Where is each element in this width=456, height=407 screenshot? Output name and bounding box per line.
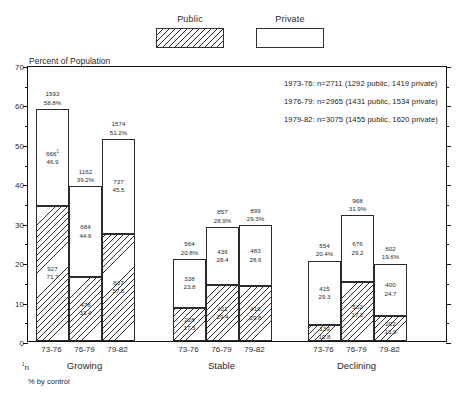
y-tick-minor (25, 87, 28, 88)
stacked-bar: 22817.533823.856420.8% (173, 259, 206, 341)
y-tick-label: 20 (15, 260, 28, 269)
annotation-line-3: 1979-82: n=3075 (1455 public, 1620 priva… (284, 115, 438, 124)
bar-total-label: 85728.9% (214, 208, 232, 225)
y-tick-right (446, 343, 451, 344)
bar-segment-private-label: 666146.9 (46, 149, 59, 167)
y-tick-label: 70 (15, 63, 28, 72)
bar-segment-private-label: 48328.6 (249, 247, 261, 264)
group-label-stable: Stable (208, 360, 235, 371)
bar-segment-private: 48328.6 (239, 225, 272, 286)
bar-segment-public: 92771.7 (36, 206, 69, 341)
y-tick-right (446, 126, 449, 127)
bar-total-label: 159358.8% (44, 90, 62, 107)
footnote-marker-text: n (25, 363, 29, 372)
x-tick-label: 73-76 (41, 345, 61, 354)
bar-segment-public-label: 20213.9 (384, 320, 396, 337)
bar-segment-private-label: 41529.3 (318, 285, 330, 302)
sample-size-annotation: 1973-76: n=2711 (1292 public, 1419 priva… (284, 79, 438, 133)
y-tick-right (446, 225, 451, 226)
bar-segment-public-label: 47833.4 (79, 301, 91, 318)
plot-area: 1973-76: n=2711 (1292 public, 1419 priva… (27, 66, 447, 342)
x-tick-label: 73-76 (178, 345, 198, 354)
y-tick-right (446, 244, 449, 245)
bar-segment-public-label: 92771.7 (46, 265, 58, 282)
y-tick-label: 30 (15, 220, 28, 229)
stacked-bar: 42129.443628.485728.9% (206, 227, 239, 341)
legend-item-private: Private (240, 14, 340, 48)
x-tick-label: 76-79 (346, 345, 366, 354)
bar-segment-public: 83757.5 (102, 234, 135, 341)
bar-segment-private-label: 43628.4 (216, 248, 228, 265)
stacked-bar: 53217.267629.296831.9% (341, 215, 374, 341)
chart-canvas: Public Private Percent of Population 197… (0, 0, 456, 407)
bar-segment-private: 666146.9 (36, 109, 69, 206)
y-tick-right (446, 166, 449, 167)
x-tick-label: 79-82 (244, 345, 264, 354)
bar-segment-private-label: 68444.6 (79, 223, 91, 240)
stacked-bar: 13910.841529.355420.4% (308, 261, 341, 341)
y-tick-minor (25, 284, 28, 285)
bar-segment-public-label: 53217.2 (351, 303, 363, 320)
bar-total-label: 55420.4% (316, 242, 334, 259)
y-tick-right (446, 185, 451, 186)
bar-total-label: 89929.3% (247, 207, 265, 224)
bar-segment-public-label: 41629.8 (249, 305, 261, 322)
bar-segment-private: 67629.2 (341, 215, 374, 282)
bar-segment-private: 40024.7 (374, 264, 407, 316)
footnote-marker-line: 1n (22, 362, 70, 372)
y-tick-label: 60 (15, 102, 28, 111)
chart-footnote: 1n % by control (22, 362, 70, 386)
bar-segment-public: 22817.5 (173, 308, 206, 341)
bar-segment-public: 13910.8 (308, 325, 341, 341)
stacked-bar: 47833.468444.6116239.2% (69, 186, 102, 341)
bar-segment-private-label: 67629.2 (351, 240, 363, 257)
bar-segment-public-label: 13910.8 (318, 325, 330, 342)
bar-segment-public: 41629.8 (239, 286, 272, 341)
bar-segment-public: 53217.2 (341, 282, 374, 341)
bar-segment-private: 73745.5 (102, 139, 135, 234)
annotation-line-1: 1973-76: n=2711 (1292 public, 1419 priva… (284, 79, 438, 88)
group-label-growing: Growing (67, 360, 102, 371)
y-tick-label: 40 (15, 181, 28, 190)
bar-segment-private: 43628.4 (206, 227, 239, 285)
y-tick-right (446, 284, 449, 285)
legend-item-public: Public (140, 14, 240, 48)
x-tick-label: 73-76 (313, 345, 333, 354)
annotation-line-2: 1976-79: n=2965 (1431 public, 1534 priva… (284, 97, 438, 106)
bar-total-label: 96831.9% (349, 197, 367, 214)
y-tick-right (446, 264, 451, 265)
x-axis-period-labels: 73-7676-7979-8273-7676-7979-8273-7676-79… (27, 345, 447, 359)
x-tick-label: 76-79 (74, 345, 94, 354)
bar-total-label: 60219.6% (382, 245, 400, 262)
bar-segment-private: 33823.8 (173, 259, 206, 308)
chart-legend: Public Private (0, 0, 456, 55)
stacked-bar: 41629.848328.689929.3% (239, 225, 272, 341)
bar-segment-public-label: 83757.5 (112, 279, 124, 296)
y-tick-right (446, 146, 451, 147)
bar-segment-private-label: 33823.8 (183, 275, 195, 292)
y-axis-title: Percent of Population (29, 56, 110, 66)
y-tick-minor (25, 244, 28, 245)
y-tick-label: 50 (15, 141, 28, 150)
y-tick-minor (25, 323, 28, 324)
stacked-bar: 92771.7666146.9159358.8% (36, 109, 69, 341)
y-tick-right (446, 323, 449, 324)
y-tick-right (446, 205, 449, 206)
y-tick-right (446, 87, 449, 88)
y-tick-right (446, 304, 451, 305)
bar-segment-public-label: 22817.5 (183, 316, 195, 333)
bar-total-label: 56420.8% (181, 240, 199, 257)
bar-total-label: 157451.2% (110, 120, 128, 137)
bar-segment-public: 47833.4 (69, 277, 102, 341)
bar-segment-private-label: 73745.5 (112, 178, 124, 195)
legend-label-private: Private (240, 14, 340, 24)
y-tick-minor (25, 126, 28, 127)
y-tick-right (446, 106, 451, 107)
y-tick-minor (25, 205, 28, 206)
legend-swatch-public (156, 28, 224, 48)
stacked-bar: 83757.573745.5157451.2% (102, 139, 135, 341)
legend-label-public: Public (140, 14, 240, 24)
bar-segment-private: 41529.3 (308, 261, 341, 326)
x-axis-group-labels: GrowingStableDeclining (27, 360, 447, 376)
stacked-bar: 20213.940024.760219.6% (374, 264, 407, 341)
